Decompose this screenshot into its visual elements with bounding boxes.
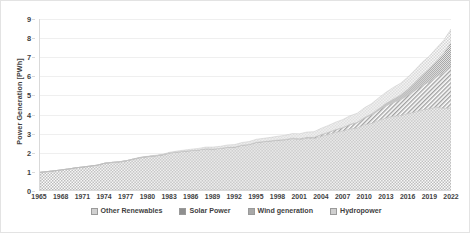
legend-item[interactable]: Other Renewables — [91, 207, 163, 215]
x-tick-label: 2001 — [292, 193, 307, 200]
legend-swatch-icon — [330, 208, 337, 215]
legend-swatch-icon — [179, 208, 186, 215]
x-tick-label: 1998 — [270, 193, 285, 200]
x-tick-label: 1992 — [226, 193, 241, 200]
x-tick-label: 1983 — [161, 193, 176, 200]
y-tick-mark — [32, 38, 35, 39]
x-tick-label: 2010 — [357, 193, 372, 200]
y-tick-label: 1 — [27, 167, 31, 176]
y-tick-label: 7 — [27, 53, 31, 62]
x-axis-tick-labels: 1965196819711974197719801983198619891992… — [39, 193, 451, 205]
x-tick-label: 1971 — [75, 193, 90, 200]
legend-item[interactable]: Wind generation — [248, 207, 314, 215]
y-tick-label: 4 — [27, 110, 31, 119]
x-tick-label: 1989 — [205, 193, 220, 200]
y-tick-label: 9 — [27, 15, 31, 24]
legend-label: Wind generation — [258, 207, 314, 215]
legend-label: Solar Power — [189, 207, 230, 215]
y-tick-label: 5 — [27, 91, 31, 100]
y-tick-mark — [32, 191, 35, 192]
y-tick-mark — [32, 134, 35, 135]
y-tick-mark — [32, 76, 35, 77]
chart-container: Power Generation [PWh] 0123456789 — [0, 0, 470, 233]
y-tick-mark — [32, 115, 35, 116]
legend-swatch-icon — [248, 208, 255, 215]
y-tick-mark — [32, 95, 35, 96]
x-tick-label: 1995 — [248, 193, 263, 200]
y-tick-label: 8 — [27, 34, 31, 43]
x-tick-label: 1986 — [183, 193, 198, 200]
legend-item[interactable]: Solar Power — [179, 207, 230, 215]
stacked-area-series — [40, 19, 451, 190]
x-tick-label: 2016 — [400, 193, 415, 200]
y-tick-mark — [32, 19, 35, 20]
y-tick-mark — [32, 172, 35, 173]
y-tick-mark — [32, 153, 35, 154]
legend-label: Hydropower — [340, 207, 381, 215]
x-tick-label: 1980 — [140, 193, 155, 200]
y-tick-mark — [32, 57, 35, 58]
x-tick-label: 2007 — [335, 193, 350, 200]
y-axis-tick-labels: 0123456789 — [1, 19, 35, 191]
legend-item[interactable]: Hydropower — [330, 207, 381, 215]
legend-label: Other Renewables — [101, 207, 163, 215]
x-tick-label: 1974 — [96, 193, 111, 200]
x-tick-label: 1965 — [31, 193, 46, 200]
chart-legend: Other RenewablesSolar PowerWind generati… — [1, 207, 470, 215]
x-tick-label: 2013 — [378, 193, 393, 200]
legend-swatch-icon — [91, 208, 98, 215]
y-tick-label: 2 — [27, 148, 31, 157]
x-tick-label: 2004 — [313, 193, 328, 200]
plot-area — [39, 19, 451, 191]
x-tick-label: 2019 — [422, 193, 437, 200]
y-tick-label: 3 — [27, 129, 31, 138]
x-tick-label: 2022 — [443, 193, 458, 200]
x-tick-label: 1968 — [53, 193, 68, 200]
area-series-hydropower — [40, 107, 451, 190]
y-tick-label: 6 — [27, 72, 31, 81]
x-tick-label: 1977 — [118, 193, 133, 200]
